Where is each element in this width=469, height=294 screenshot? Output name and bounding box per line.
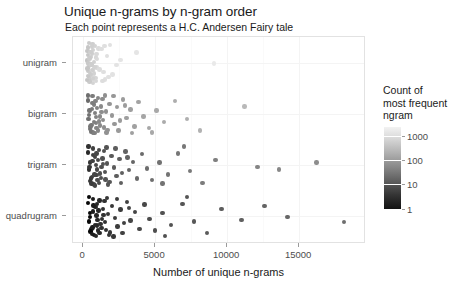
legend-title-line: Count of bbox=[383, 84, 469, 97]
data-point bbox=[212, 61, 216, 65]
data-point bbox=[101, 207, 105, 211]
x-axis-tick bbox=[226, 243, 227, 247]
data-point bbox=[140, 152, 144, 156]
data-point bbox=[147, 217, 151, 221]
data-point bbox=[125, 155, 129, 159]
data-point bbox=[93, 183, 97, 187]
data-point bbox=[95, 202, 99, 206]
data-point bbox=[262, 204, 266, 208]
legend-tick-mark bbox=[402, 209, 405, 210]
data-point bbox=[106, 212, 110, 216]
data-point bbox=[104, 130, 108, 134]
data-point bbox=[192, 219, 196, 223]
data-point bbox=[100, 156, 104, 160]
data-point bbox=[125, 200, 129, 204]
data-point bbox=[277, 167, 281, 171]
x-axis-labels: 050001000015000 bbox=[72, 243, 365, 263]
y-axis-tick-label: trigram bbox=[27, 159, 57, 170]
legend-tick-label: 10 bbox=[407, 179, 418, 190]
data-point bbox=[90, 159, 94, 163]
data-point bbox=[116, 128, 120, 132]
x-axis-tick-label: 15000 bbox=[285, 249, 311, 260]
data-point bbox=[176, 151, 180, 155]
data-point bbox=[118, 207, 122, 211]
data-point bbox=[134, 50, 138, 54]
data-point bbox=[154, 108, 158, 112]
data-point bbox=[163, 234, 167, 238]
x-axis-tick-label: 5000 bbox=[144, 249, 165, 260]
data-point bbox=[118, 58, 122, 62]
data-point bbox=[86, 98, 90, 102]
data-point bbox=[114, 174, 118, 178]
data-point bbox=[86, 150, 90, 154]
data-point bbox=[113, 146, 117, 150]
legend-tick-label: 1 bbox=[407, 203, 412, 214]
data-point bbox=[87, 165, 91, 169]
gridline-horizontal bbox=[73, 114, 364, 115]
data-point bbox=[132, 124, 136, 128]
data-point bbox=[205, 231, 209, 235]
gridline-vertical bbox=[83, 37, 84, 242]
data-point bbox=[86, 144, 90, 148]
data-point bbox=[85, 66, 89, 70]
data-point bbox=[101, 70, 105, 74]
data-point bbox=[114, 63, 118, 67]
data-point bbox=[110, 72, 114, 76]
data-point bbox=[86, 117, 90, 121]
data-point bbox=[93, 99, 97, 103]
data-point bbox=[88, 50, 92, 54]
data-point bbox=[123, 103, 127, 107]
data-point bbox=[314, 160, 318, 164]
legend-tick bbox=[384, 160, 401, 161]
data-point bbox=[120, 171, 124, 175]
data-point bbox=[127, 168, 131, 172]
legend-tick-mark bbox=[402, 160, 405, 161]
data-point bbox=[113, 216, 117, 220]
data-point bbox=[91, 146, 95, 150]
data-point bbox=[242, 104, 246, 108]
y-axis-tick bbox=[62, 113, 66, 114]
data-point bbox=[133, 210, 137, 214]
gridline-horizontal bbox=[73, 165, 364, 166]
data-point bbox=[112, 122, 116, 126]
chart-title: Unique n-grams by n-gram order bbox=[64, 4, 257, 19]
data-point bbox=[103, 220, 107, 224]
data-point bbox=[104, 109, 108, 113]
data-point bbox=[185, 195, 189, 199]
gridline-vertical-minor bbox=[263, 37, 264, 242]
data-point bbox=[119, 181, 123, 185]
x-axis-tick-label: 0 bbox=[79, 249, 84, 260]
data-point bbox=[130, 131, 134, 135]
y-axis-tick-label: unigram bbox=[23, 56, 57, 67]
y-axis-tick bbox=[62, 164, 66, 165]
data-point bbox=[117, 157, 121, 161]
data-point bbox=[142, 202, 146, 206]
data-point bbox=[219, 207, 223, 211]
data-point bbox=[94, 52, 98, 56]
data-point bbox=[99, 104, 103, 108]
data-point bbox=[160, 211, 164, 215]
y-axis-tick bbox=[62, 215, 66, 216]
y-axis-labels: unigrambigramtrigramquadrugram bbox=[0, 36, 66, 243]
data-point bbox=[90, 94, 94, 98]
data-point bbox=[239, 218, 243, 222]
data-point bbox=[150, 178, 154, 182]
data-point bbox=[127, 206, 131, 210]
y-axis-tick-label: quadrugram bbox=[6, 210, 57, 221]
data-point bbox=[88, 215, 92, 219]
legend-body: 1000100101 bbox=[383, 127, 469, 211]
data-point bbox=[162, 120, 166, 124]
data-point bbox=[188, 169, 192, 173]
data-point bbox=[90, 44, 94, 48]
y-axis-tick-label: bigram bbox=[28, 107, 57, 118]
x-axis-tick bbox=[82, 243, 83, 247]
data-point bbox=[118, 118, 122, 122]
data-point bbox=[111, 94, 115, 98]
data-point bbox=[150, 130, 154, 134]
legend-tick bbox=[384, 184, 401, 185]
chart-root: Unique n-grams by n-gram order Each poin… bbox=[0, 0, 469, 294]
data-point bbox=[101, 213, 105, 217]
data-point bbox=[115, 197, 119, 201]
gridline-vertical bbox=[299, 37, 300, 242]
legend-tick-label: 1000 bbox=[407, 130, 428, 141]
